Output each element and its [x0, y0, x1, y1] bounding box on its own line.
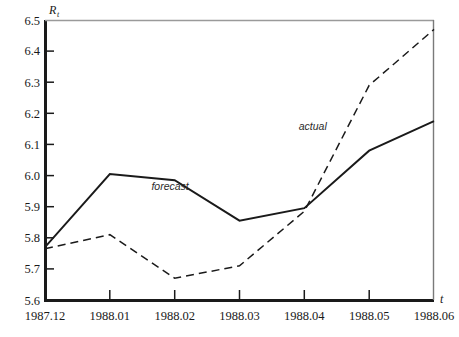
- y-tick-label: 6.0: [24, 169, 40, 183]
- y-tick-label: 5.6: [24, 294, 40, 308]
- y-tick-label: 6.1: [24, 138, 40, 152]
- y-axis-title-text: R: [48, 3, 57, 17]
- y-axis-title-subscript: t: [57, 10, 60, 19]
- x-tick-label: 1988.06: [414, 309, 455, 323]
- y-tick-label: 5.9: [24, 200, 40, 214]
- x-tick-label: 1988.03: [219, 309, 260, 323]
- x-axis-ticks: [110, 290, 369, 299]
- x-axis-labels: 1987.12 1988.01 1988.02 1988.03 1988.04 …: [25, 309, 455, 323]
- chart-figure: 6.5 6.4 6.3 6.2 6.1 6.0 5.9 5.8 5.7 5.6 …: [0, 0, 459, 337]
- y-axis-labels: 6.5 6.4 6.3 6.2 6.1 6.0 5.9 5.8 5.7 5.6: [24, 14, 40, 308]
- y-axis-title: R t: [48, 3, 60, 19]
- x-tick-label: 1988.04: [284, 309, 325, 323]
- series-annotation-actual: actual: [299, 120, 328, 132]
- series-annotation-forecast: forecast: [151, 180, 189, 192]
- y-tick-label: 6.2: [24, 107, 40, 121]
- y-tick-label: 5.7: [24, 262, 40, 276]
- y-tick-label: 6.3: [24, 76, 40, 90]
- y-tick-label: 5.8: [24, 231, 40, 245]
- series-line-actual: [45, 29, 434, 278]
- axis-frame: [44, 20, 434, 301]
- x-tick-label: 1988.02: [154, 309, 195, 323]
- chart-canvas: 6.5 6.4 6.3 6.2 6.1 6.0 5.9 5.8 5.7 5.6 …: [0, 0, 459, 337]
- x-tick-label: 1987.12: [25, 309, 66, 323]
- x-axis-title-text: t: [440, 292, 444, 306]
- y-tick-label: 6.5: [24, 14, 40, 28]
- x-tick-label: 1988.05: [349, 309, 390, 323]
- x-tick-label: 1988.01: [89, 309, 130, 323]
- series-line-forecast: [45, 121, 434, 247]
- y-tick-label: 6.4: [24, 44, 40, 58]
